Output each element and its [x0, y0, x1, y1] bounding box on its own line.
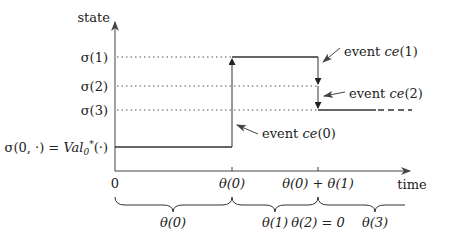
event-label-ce2: event ce(2): [349, 86, 423, 101]
y-axis-label: state: [77, 10, 110, 25]
brace-theta3: [318, 197, 405, 212]
duration-label-theta0: θ(0): [160, 215, 186, 230]
duration-label-theta3: θ(3): [362, 215, 388, 230]
duration-label-theta1: θ(1): [262, 215, 288, 230]
event-label-ce0: event ce(0): [262, 126, 336, 141]
pointer-ce2: [324, 92, 345, 96]
tick-label-theta0: θ(0): [219, 176, 245, 191]
tick-label-theta0-plus-theta1: θ(0) + θ(1): [282, 176, 354, 191]
state-label-sigma0: σ(0, ·) = Val0*(·): [5, 139, 108, 157]
state-label-sigma3: σ(3): [81, 103, 108, 118]
duration-label-theta2: θ(2) = 0: [291, 215, 345, 230]
event-label-ce1: event ce(1): [344, 44, 418, 59]
state-label-sigma1: σ(1): [81, 50, 108, 65]
x-axis-label: time: [397, 177, 427, 192]
pointer-ce1: [323, 48, 340, 62]
tick-label-0: 0: [111, 176, 119, 191]
brace-theta1: [232, 197, 318, 212]
state-transition-diagram: state time σ(1) σ(2) σ(3) σ(0, ·) = Val0…: [0, 0, 449, 240]
state-label-sigma2: σ(2): [81, 79, 108, 94]
pointer-ce0: [237, 125, 258, 134]
brace-theta0: [115, 197, 232, 212]
